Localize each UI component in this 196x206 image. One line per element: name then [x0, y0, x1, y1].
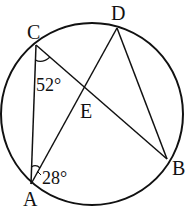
point-label-d: D — [111, 2, 125, 24]
geometry-figure: C D E B A 52° 28° — [0, 0, 196, 206]
segment-ca — [31, 45, 36, 184]
segment-db — [117, 28, 167, 159]
point-label-c: C — [27, 21, 40, 43]
angle-label-a: 28° — [42, 168, 67, 188]
angle-arc-a — [32, 166, 41, 168]
point-label-e: E — [80, 100, 92, 122]
segment-cb — [36, 45, 167, 159]
angle-label-c: 52° — [36, 75, 61, 95]
angle-arc-c — [36, 57, 51, 61]
point-label-a: A — [23, 188, 38, 206]
point-label-b: B — [172, 157, 185, 179]
